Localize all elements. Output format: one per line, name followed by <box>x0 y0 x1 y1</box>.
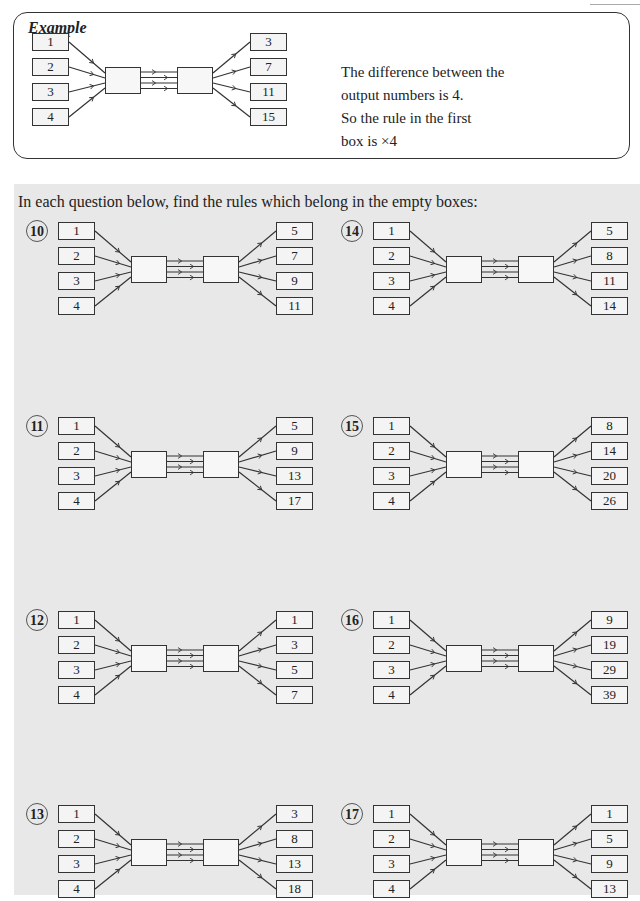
output-box: 7 <box>250 58 287 76</box>
output-box: 13 <box>276 467 313 485</box>
input-box: 3 <box>58 855 95 873</box>
output-box: 9 <box>276 442 313 460</box>
output-box: 1 <box>276 611 313 629</box>
input-box: 1 <box>373 611 410 629</box>
question-number: 17 <box>341 803 363 825</box>
rule-box-second[interactable] <box>518 451 554 478</box>
output-box: 5 <box>591 830 628 848</box>
input-box: 3 <box>373 661 410 679</box>
input-box: 4 <box>58 492 95 510</box>
input-box: 3 <box>58 467 95 485</box>
rule-box-first[interactable] <box>131 839 167 866</box>
input-box: 4 <box>58 297 95 315</box>
example-diagram: 1327311415 <box>32 33 292 129</box>
input-box: 3 <box>373 467 410 485</box>
input-box: 1 <box>58 611 95 629</box>
input-box: 2 <box>373 636 410 654</box>
output-box: 5 <box>276 222 313 240</box>
rule-box-second[interactable] <box>203 645 239 672</box>
question-number: 11 <box>26 415 48 437</box>
input-box: 2 <box>373 830 410 848</box>
question-12-diagram: 11233547 <box>58 611 318 707</box>
input-box: 1 <box>373 417 410 435</box>
rule-box-first[interactable] <box>131 645 167 672</box>
input-box: 3 <box>373 855 410 873</box>
input-box: 4 <box>373 880 410 898</box>
input-box: 4 <box>32 108 69 126</box>
instruction-text: In each question below, find the rules w… <box>18 193 478 211</box>
output-box: 8 <box>591 247 628 265</box>
output-box: 11 <box>591 272 628 290</box>
input-box: 1 <box>373 805 410 823</box>
output-box: 20 <box>591 467 628 485</box>
output-box: 8 <box>591 417 628 435</box>
input-box: 1 <box>58 417 95 435</box>
question-13-diagram: 1328313418 <box>58 805 318 901</box>
input-box: 3 <box>373 272 410 290</box>
rule-box-second[interactable] <box>203 839 239 866</box>
input-box: 2 <box>58 247 95 265</box>
question-number: 12 <box>26 609 48 631</box>
rule-box-second[interactable] <box>518 839 554 866</box>
output-box: 3 <box>276 805 313 823</box>
question-17-diagram: 112539413 <box>373 805 633 901</box>
question-number: 14 <box>341 220 363 242</box>
question-11-diagram: 1529313417 <box>58 417 318 513</box>
rule-box-first[interactable] <box>446 839 482 866</box>
input-box: 1 <box>32 33 69 51</box>
explanation-line: So the rule in the first <box>341 107 504 130</box>
rule-box-second[interactable] <box>518 645 554 672</box>
input-box: 4 <box>58 686 95 704</box>
output-box: 26 <box>591 492 628 510</box>
input-box: 1 <box>373 222 410 240</box>
rule-box-first[interactable] <box>131 256 167 283</box>
output-box: 15 <box>250 108 287 126</box>
question-15-diagram: 18214320426 <box>373 417 633 513</box>
rule-box-first[interactable] <box>105 67 141 94</box>
explanation-line: The difference between the <box>341 61 504 84</box>
output-box: 9 <box>591 611 628 629</box>
input-box: 1 <box>58 222 95 240</box>
output-box: 9 <box>276 272 313 290</box>
output-box: 13 <box>276 855 313 873</box>
rule-box-first[interactable] <box>446 451 482 478</box>
input-box: 4 <box>373 686 410 704</box>
rule-box-first[interactable] <box>131 451 167 478</box>
question-number: 16 <box>341 609 363 631</box>
output-box: 9 <box>591 855 628 873</box>
input-box: 2 <box>32 58 69 76</box>
example-panel: Example 1327311415 The difference betwee… <box>13 12 630 159</box>
output-box: 13 <box>591 880 628 898</box>
input-box: 2 <box>58 442 95 460</box>
input-box: 2 <box>373 247 410 265</box>
page-number-mark <box>590 0 640 5</box>
output-box: 8 <box>276 830 313 848</box>
input-box: 2 <box>58 830 95 848</box>
rule-box-second[interactable] <box>203 451 239 478</box>
rule-box-first[interactable] <box>446 645 482 672</box>
input-box: 2 <box>58 636 95 654</box>
example-explanation: The difference between the output number… <box>341 61 504 153</box>
output-box: 39 <box>591 686 628 704</box>
output-box: 17 <box>276 492 313 510</box>
input-box: 3 <box>32 83 69 101</box>
rule-box-first[interactable] <box>446 256 482 283</box>
output-box: 29 <box>591 661 628 679</box>
output-box: 11 <box>276 297 313 315</box>
rule-box-second[interactable] <box>518 256 554 283</box>
input-box: 2 <box>373 442 410 460</box>
rule-box-second[interactable] <box>177 67 213 94</box>
output-box: 5 <box>276 661 313 679</box>
input-box: 4 <box>373 492 410 510</box>
explanation-line: box is ×4 <box>341 130 504 153</box>
output-box: 7 <box>276 247 313 265</box>
question-number: 15 <box>341 415 363 437</box>
output-box: 7 <box>276 686 313 704</box>
question-number: 13 <box>26 803 48 825</box>
input-box: 3 <box>58 272 95 290</box>
rule-box-second[interactable] <box>203 256 239 283</box>
output-box: 18 <box>276 880 313 898</box>
output-box: 3 <box>250 33 287 51</box>
output-box: 19 <box>591 636 628 654</box>
output-box: 14 <box>591 442 628 460</box>
